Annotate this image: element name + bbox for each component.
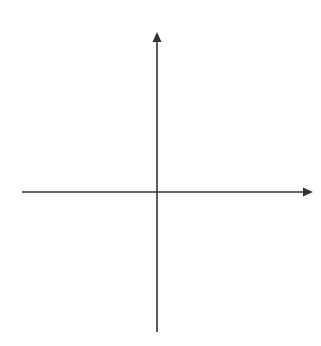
x-axis-arrow-icon bbox=[303, 188, 313, 197]
axes bbox=[22, 32, 313, 332]
coordinate-plane bbox=[0, 0, 321, 346]
y-axis-arrow-icon bbox=[153, 32, 162, 42]
